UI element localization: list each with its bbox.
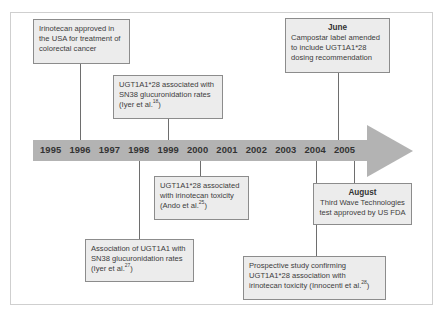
event-box-1998: Association of UGT1A1 with SN38 glucuron… [85, 239, 194, 282]
event-box-2000: UGT1A1*28 associated with irinotecan tox… [154, 176, 249, 220]
connector-2000 [200, 161, 201, 177]
connector-june-2005 [338, 72, 339, 140]
year-label: 1995 [40, 144, 69, 158]
timeline-arrow-head [367, 125, 413, 177]
year-label: 2001 [216, 144, 245, 158]
year-label: 1998 [128, 144, 157, 158]
year-label: 2000 [187, 144, 216, 158]
year-label: 1999 [158, 144, 187, 158]
event-box-august-2005: August Third Wave Technologies test appr… [313, 183, 412, 225]
event-box-2004: Prospective study confirming UGT1A1*28 a… [243, 256, 386, 300]
event-text: UGT1A1*28 associated with SN38 glucuroni… [119, 80, 214, 109]
event-text: Campostar label amended to include UGT1A… [291, 33, 380, 62]
event-text-suffix: ) [367, 281, 370, 290]
connector-1999 [168, 118, 169, 140]
year-axis: 1995 1996 1997 1998 1999 2000 2001 2002 … [40, 144, 363, 158]
event-box-1999: UGT1A1*28 associated with SN38 glucuroni… [113, 75, 223, 119]
year-label: 2005 [334, 144, 363, 158]
event-text: Irinotecan approved in the USA for treat… [39, 24, 120, 53]
event-text-suffix: ) [204, 201, 207, 210]
connector-1996 [80, 63, 81, 140]
year-label: 1996 [69, 144, 98, 158]
year-label: 2004 [305, 144, 334, 158]
event-box-june-2005: June Campostar label amended to include … [285, 18, 390, 73]
year-label: 1997 [99, 144, 128, 158]
event-text-suffix: ) [158, 100, 161, 109]
event-text-suffix: ) [130, 264, 133, 273]
year-label: 2003 [275, 144, 304, 158]
event-heading: August [319, 188, 406, 198]
event-text: Prospective study confirming UGT1A1*28 a… [249, 261, 361, 290]
connector-1998 [139, 161, 140, 240]
event-heading: June [291, 23, 384, 33]
event-text: Association of UGT1A1 with SN38 glucuron… [91, 244, 186, 273]
event-box-1996: Irinotecan approved in the USA for treat… [33, 19, 130, 64]
event-text: Third Wave Technologies test approved by… [319, 198, 406, 218]
year-label: 2002 [246, 144, 275, 158]
event-text: UGT1A1*28 associated with irinotecan tox… [160, 181, 239, 210]
connector-august-2005 [354, 161, 355, 184]
